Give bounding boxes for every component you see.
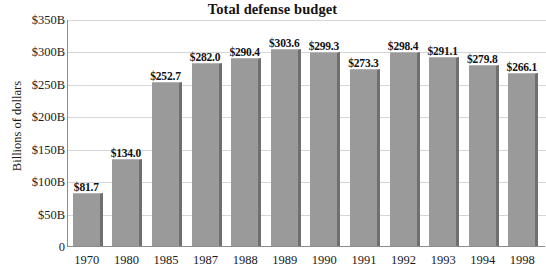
- bar[interactable]: $81.7: [73, 193, 103, 246]
- bar[interactable]: $279.8: [469, 65, 499, 246]
- y-axis-tick-label: $250B: [18, 77, 65, 93]
- bars-group: $81.7$134.0$252.7$282.0$290.4$303.6$299.…: [68, 19, 546, 246]
- bar-slot: $282.0: [187, 19, 227, 246]
- bar-value-label: $290.4: [229, 46, 259, 58]
- bar-slot: $252.7: [147, 19, 187, 246]
- bar-slot: $266.1: [504, 19, 544, 246]
- x-axis-tick-label: 1985: [146, 250, 186, 270]
- x-axis-tick-label: 1994: [463, 250, 503, 270]
- bar-value-label: $298.4: [388, 40, 418, 52]
- y-axis-tick-label: $300B: [18, 44, 65, 60]
- y-axis-tick-label: 0: [18, 239, 65, 255]
- bar[interactable]: $303.6: [271, 49, 301, 246]
- bar[interactable]: $273.3: [350, 69, 380, 246]
- x-axis-tick-label: 1980: [107, 250, 147, 270]
- plot-area: $81.7$134.0$252.7$282.0$290.4$303.6$299.…: [67, 20, 545, 247]
- bar-slot: $279.8: [464, 19, 504, 246]
- x-axis-tick-label: 1987: [186, 250, 226, 270]
- chart-title: Total defense budget: [0, 0, 545, 19]
- bar-value-label: $299.3: [309, 40, 339, 52]
- y-axis-tick-labels: $350B$300B$250B$200B$150B$100B$50B0: [14, 0, 65, 275]
- y-axis-tick-label: $350B: [18, 12, 65, 28]
- y-axis-tick-label: $150B: [18, 142, 65, 158]
- y-axis-tick-label: $200B: [18, 109, 65, 125]
- bar-value-label: $291.1: [427, 45, 457, 57]
- x-axis-tick-label: 1990: [305, 250, 345, 270]
- bar-value-label: $81.7: [74, 181, 99, 193]
- y-axis-tick-label: $100B: [18, 174, 65, 190]
- x-axis-tick-label: 1993: [423, 250, 463, 270]
- bar-value-label: $252.7: [150, 70, 180, 82]
- bar-value-label: $303.6: [269, 37, 299, 49]
- x-axis-tick-label: 1998: [503, 250, 543, 270]
- bar-slot: $298.4: [385, 19, 425, 246]
- bar[interactable]: $282.0: [192, 63, 222, 246]
- x-axis-tick-label: 1989: [265, 250, 305, 270]
- bar[interactable]: $134.0: [112, 159, 142, 246]
- y-axis-tick-label: $50B: [18, 207, 65, 223]
- bar-slot: $290.4: [226, 19, 266, 246]
- x-axis-tick-label: 1970: [67, 250, 107, 270]
- bar-value-label: $266.1: [507, 61, 537, 73]
- bar-slot: $303.6: [266, 19, 306, 246]
- x-axis-tick-label: 1991: [344, 250, 384, 270]
- bar-slot: $134.0: [108, 19, 148, 246]
- bar-slot: $81.7: [68, 19, 108, 246]
- bar[interactable]: $266.1: [508, 73, 538, 246]
- bar[interactable]: $298.4: [390, 52, 420, 246]
- bar-value-label: $282.0: [190, 51, 220, 63]
- bar[interactable]: $252.7: [152, 82, 182, 246]
- x-axis-tick-label: 1988: [225, 250, 265, 270]
- bar[interactable]: $290.4: [231, 58, 261, 246]
- bar-value-label: $279.8: [467, 53, 497, 65]
- bar-value-label: $134.0: [111, 147, 141, 159]
- bar-value-label: $273.3: [348, 57, 378, 69]
- bar[interactable]: $299.3: [310, 52, 340, 246]
- x-axis-tick-labels: 1970198019851987198819891990199119921993…: [67, 250, 545, 270]
- bar[interactable]: $291.1: [429, 57, 459, 246]
- bar-slot: $291.1: [424, 19, 464, 246]
- bar-slot: $273.3: [345, 19, 385, 246]
- x-axis-tick-label: 1992: [384, 250, 424, 270]
- bar-slot: $299.3: [306, 19, 346, 246]
